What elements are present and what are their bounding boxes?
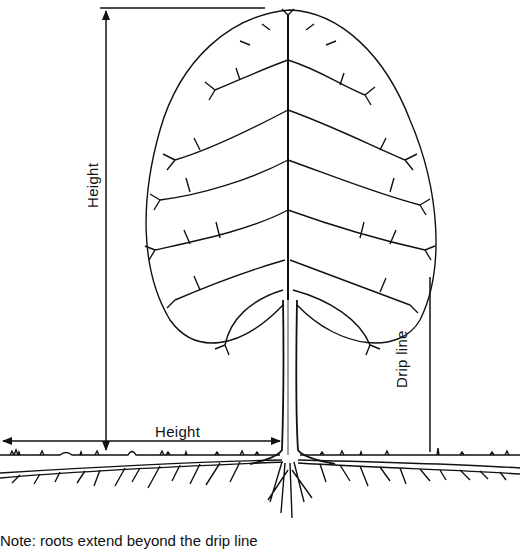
caption: Note: roots extend beyond the drip line [0,532,258,549]
vertical-height-label: Height [84,163,101,208]
ground-line [0,448,520,455]
drip-line-label: Drip line [393,330,410,388]
tree-crown [145,9,436,355]
root-system [0,460,520,518]
tree-trunk [250,300,335,464]
horizontal-height-label: Height [155,423,200,440]
